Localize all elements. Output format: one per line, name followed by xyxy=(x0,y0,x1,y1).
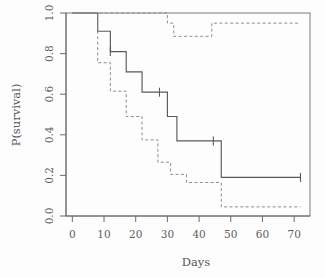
plot-frame-box xyxy=(66,13,310,216)
x-tick-label: 30 xyxy=(161,228,174,240)
y-tick-label: 0.2 xyxy=(43,167,55,184)
censoring-marks-layer xyxy=(110,47,300,182)
y-tick-label: 0.6 xyxy=(43,86,55,103)
series-upper-confidence-limit xyxy=(72,13,300,36)
y-axis: 0.00.20.40.60.81.0 P(survival) xyxy=(9,5,66,225)
x-tick-label: 60 xyxy=(256,228,269,240)
plot-frame xyxy=(66,13,310,216)
y-axis-ticks xyxy=(60,13,66,216)
x-tick-label: 40 xyxy=(192,228,205,240)
y-axis-title: P(survival) xyxy=(9,84,23,147)
x-tick-label: 10 xyxy=(97,228,110,240)
x-tick-label: 70 xyxy=(287,228,300,240)
y-tick-label: 1.0 xyxy=(43,5,55,22)
survival-plot-svg: 0.00.20.40.60.81.0 P(survival) 010203040… xyxy=(0,0,325,278)
y-tick-label: 0.8 xyxy=(43,45,55,62)
x-axis-tick-labels: 010203040506070 xyxy=(69,228,301,240)
y-tick-label: 0.4 xyxy=(43,126,55,143)
y-tick-label: 0.0 xyxy=(43,208,55,225)
y-axis-tick-labels: 0.00.20.40.60.81.0 xyxy=(43,5,55,225)
x-axis-title: Days xyxy=(182,255,211,269)
data-series-layer xyxy=(72,13,300,207)
x-tick-label: 50 xyxy=(224,228,237,240)
series-survival-estimate xyxy=(72,13,300,177)
x-axis: 010203040506070 Days xyxy=(66,216,310,269)
x-tick-label: 20 xyxy=(129,228,142,240)
x-axis-ticks xyxy=(72,216,294,222)
x-tick-label: 0 xyxy=(69,228,76,240)
survival-plot-figure: 0.00.20.40.60.81.0 P(survival) 010203040… xyxy=(0,0,325,278)
